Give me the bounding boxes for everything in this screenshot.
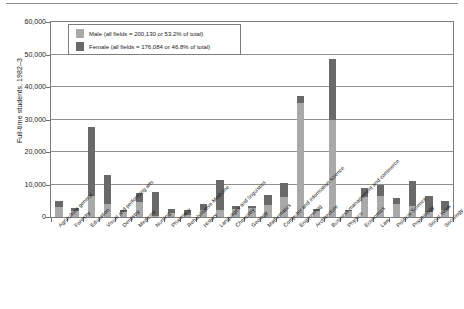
- y-tick-label: 60,000: [2, 18, 46, 25]
- bar-segment-male: [393, 204, 400, 217]
- bar-segment-female: [377, 185, 384, 197]
- bar-column: [55, 201, 62, 217]
- legend-label-male: Male (all fields = 200,130 or 53.2% of t…: [89, 31, 203, 37]
- bar-segment-female: [280, 183, 287, 197]
- bar-segment-female: [104, 175, 111, 204]
- bar-segment-male: [297, 103, 304, 217]
- y-tick-label: 30,000: [2, 116, 46, 123]
- bar-segment-male: [329, 120, 336, 218]
- bar-column: [297, 96, 304, 217]
- y-tick-label: 10,000: [2, 181, 46, 188]
- x-axis-labels: Agriculture generalForestryEducationVisu…: [0, 222, 464, 309]
- legend-swatch-female: [76, 42, 84, 51]
- bar-segment-female: [264, 195, 271, 206]
- top-divider: [6, 3, 458, 4]
- legend-item-male: Male (all fields = 200,130 or 53.2% of t…: [76, 29, 203, 38]
- bar-column: [329, 59, 336, 217]
- bar-segment-female: [88, 127, 95, 196]
- bar-segment-female: [329, 59, 336, 119]
- y-tick-label: 20,000: [2, 148, 46, 155]
- legend: Male (all fields = 200,130 or 53.2% of t…: [68, 24, 241, 55]
- bar-segment-female: [297, 96, 304, 103]
- y-tick-label: 40,000: [2, 83, 46, 90]
- chart-figure: Full-time students, 1982–3 60,00050,0004…: [0, 0, 464, 309]
- y-tick-label: 50,000: [2, 51, 46, 58]
- legend-swatch-male: [76, 29, 84, 38]
- bar-column: [88, 127, 95, 217]
- legend-label-female: Female (all fields = 176,084 or 46.8% of…: [89, 44, 210, 50]
- bar-segment-male: [55, 207, 62, 217]
- y-tick-label: 0: [2, 213, 46, 220]
- bar-column: [393, 198, 400, 218]
- legend-item-female: Female (all fields = 176,084 or 46.8% of…: [76, 42, 210, 51]
